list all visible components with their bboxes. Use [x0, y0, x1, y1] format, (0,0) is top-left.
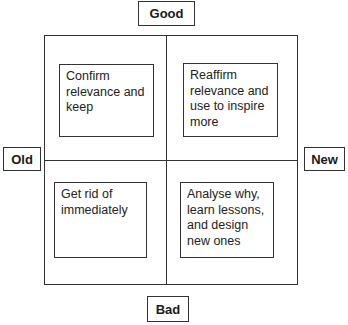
- quadrant-bad-old: Get rid of immediately: [54, 182, 147, 258]
- quadrant-good-new: Reaffirm relevance and use to inspire mo…: [183, 63, 278, 137]
- axis-label-good: Good: [138, 1, 195, 26]
- horizontal-divider: [44, 160, 298, 161]
- axis-label-new: New: [304, 147, 345, 171]
- axis-label-old: Old: [3, 147, 41, 171]
- quadrant-good-old: Confirm relevance and keep: [59, 64, 154, 137]
- axis-label-bad: Bad: [147, 296, 189, 322]
- quadrant-bad-new: Analyse why, learn lessons, and design n…: [180, 182, 274, 258]
